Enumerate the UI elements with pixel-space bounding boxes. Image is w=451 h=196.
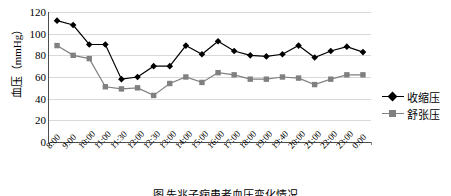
legend: 收缩压 舒张压 — [382, 88, 451, 122]
legend-label-diastolic: 舒张压 — [404, 106, 440, 122]
y-axis-tick-label: 80 — [20, 50, 46, 60]
y-axis-tick-labels: 120100806040200 — [0, 0, 46, 196]
y-axis-tick-label: 0 — [20, 137, 46, 147]
y-axis-tick-label: 20 — [20, 115, 46, 125]
square-marker-icon — [382, 108, 404, 119]
chart-figure: 血压（mmHg） 120100806040200 8:009:0010:0011… — [0, 0, 451, 196]
y-axis-tick-label: 100 — [20, 29, 46, 39]
y-axis-tick-label: 40 — [20, 94, 46, 104]
x-axis-tick-mark — [371, 142, 372, 145]
diamond-marker-icon — [382, 91, 404, 102]
y-axis-tick-label: 60 — [20, 72, 46, 82]
legend-label-systolic: 收缩压 — [404, 89, 440, 105]
plot-area — [48, 12, 371, 143]
x-axis-tick-labels: 8:009:0010:0011:0011:3012:0012:3013:0014… — [48, 144, 370, 184]
figure-caption: 图 先兆子痫患者血压变化情况 — [0, 186, 451, 196]
legend-item-diastolic: 舒张压 — [382, 105, 451, 122]
legend-item-systolic: 收缩压 — [382, 88, 451, 105]
x-axis-tick-marks — [49, 12, 371, 142]
y-axis-tick-label: 120 — [20, 7, 46, 17]
